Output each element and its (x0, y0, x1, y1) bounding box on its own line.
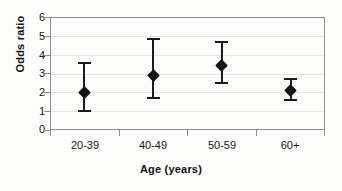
error-bar-cap-lower-40-49 (147, 97, 160, 99)
error-bar-cap-upper-40-49 (147, 38, 160, 40)
x-tick-label-50-59: 50-59 (187, 139, 257, 151)
y-tick-label-0: 0 (21, 124, 45, 135)
x-tick-label-40-49: 40-49 (118, 139, 188, 151)
error-bar-line-40-49 (152, 38, 154, 97)
error-bar-cap-lower-20-39 (78, 110, 91, 112)
error-bar-cap-upper-60+ (284, 78, 297, 80)
x-tick-mark-1 (119, 130, 120, 136)
y-tick-label-1: 1 (21, 106, 45, 117)
gridline-3 (51, 74, 324, 75)
x-tick-label-20-39: 20-39 (50, 139, 120, 151)
gridline-1 (51, 111, 324, 112)
x-tick-mark-right (324, 130, 325, 136)
y-tick-label-5: 5 (21, 31, 45, 42)
x-axis-title: Age (years) (0, 163, 342, 175)
x-tick-mark-3 (256, 130, 257, 136)
y-tick-label-6: 6 (21, 12, 45, 23)
error-bar-cap-lower-60+ (284, 99, 297, 101)
x-tick-label-60-plus: 60+ (255, 139, 325, 151)
gridline-2 (51, 92, 324, 93)
y-tick-label-3: 3 (21, 68, 45, 79)
x-tick-mark-left (50, 130, 51, 136)
gridline-4 (51, 55, 324, 56)
odds-ratio-chart: Odds ratio 6 5 4 3 2 1 0 20-39 40-49 50-… (0, 0, 342, 191)
y-tick-label-2: 2 (21, 87, 45, 98)
error-bar-cap-lower-50-59 (215, 82, 228, 84)
error-bar-cap-upper-50-59 (215, 41, 228, 43)
x-tick-mark-2 (187, 130, 188, 136)
plot-area (50, 17, 325, 130)
error-bar-cap-upper-20-39 (78, 62, 91, 64)
gridline-5 (51, 36, 324, 37)
y-tick-label-4: 4 (21, 50, 45, 61)
